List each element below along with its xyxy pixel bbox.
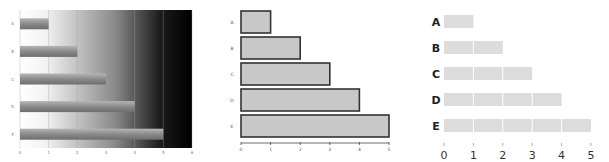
category-label: B bbox=[432, 42, 440, 55]
category-label: A bbox=[11, 21, 14, 26]
bar-C bbox=[444, 67, 532, 80]
gradient-bar-chart-svg: ABCDE0123456 bbox=[0, 0, 200, 162]
outlined-bar-chart: ABCDE012345 bbox=[220, 0, 400, 162]
tick-label: 1 bbox=[470, 149, 477, 162]
outlined-bar-chart-svg: ABCDE012345 bbox=[220, 0, 400, 162]
tick-label: 3 bbox=[529, 149, 536, 162]
bar-A bbox=[241, 11, 271, 33]
tick-label: 5 bbox=[588, 149, 595, 162]
tick-label: 3 bbox=[328, 147, 331, 152]
category-label: B bbox=[11, 49, 14, 54]
tick-label: 4 bbox=[358, 147, 361, 152]
tick-label: 1 bbox=[47, 150, 50, 155]
tick-label: 4 bbox=[558, 149, 565, 162]
bar-C bbox=[241, 63, 330, 85]
category-label: C bbox=[230, 72, 233, 77]
bar-E bbox=[20, 129, 163, 140]
category-label: A bbox=[432, 16, 441, 29]
bar-D bbox=[241, 89, 359, 111]
category-label: E bbox=[432, 120, 440, 133]
gradient-bar-chart: ABCDE0123456 bbox=[0, 0, 200, 162]
category-label: C bbox=[11, 77, 14, 82]
tick-label: 2 bbox=[76, 150, 79, 155]
category-label: D bbox=[230, 98, 234, 103]
tick-label: 4 bbox=[133, 150, 136, 155]
segmented-bar-chart-svg: ABCDE012345 bbox=[420, 0, 609, 162]
tick-label: 0 bbox=[19, 150, 22, 155]
bar-A bbox=[20, 18, 49, 29]
bar-D bbox=[20, 101, 135, 112]
bar-B bbox=[241, 37, 300, 59]
bar-E bbox=[444, 119, 591, 132]
category-label: D bbox=[11, 104, 14, 109]
bar-B bbox=[20, 46, 77, 57]
bar-E bbox=[241, 115, 389, 137]
category-label: D bbox=[431, 94, 440, 107]
tick-label: 0 bbox=[240, 147, 243, 152]
bar-A bbox=[444, 15, 473, 28]
tick-label: 2 bbox=[499, 149, 506, 162]
category-label: E bbox=[11, 132, 14, 137]
tick-label: 3 bbox=[105, 150, 108, 155]
tick-label: 6 bbox=[191, 150, 194, 155]
bar-C bbox=[20, 74, 106, 85]
tick-label: 2 bbox=[299, 147, 302, 152]
category-label: B bbox=[230, 46, 233, 51]
category-label: E bbox=[231, 124, 234, 129]
category-label: A bbox=[230, 20, 234, 25]
segmented-bar-chart: ABCDE012345 bbox=[420, 0, 609, 162]
tick-label: 1 bbox=[269, 147, 272, 152]
tick-label: 5 bbox=[388, 147, 391, 152]
category-label: C bbox=[432, 68, 440, 81]
tick-label: 5 bbox=[162, 150, 165, 155]
tick-label: 0 bbox=[441, 149, 448, 162]
